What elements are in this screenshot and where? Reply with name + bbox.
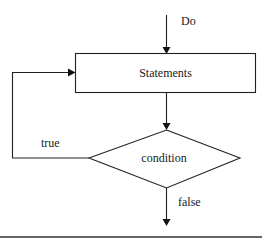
condition-diamond: condition: [89, 130, 240, 188]
true-label: true: [41, 136, 60, 150]
false-exit-arrow: [163, 188, 171, 226]
do-while-flowchart: Do Statements condition true false: [0, 0, 262, 239]
statements-to-condition-arrow: [163, 93, 171, 130]
false-label: false: [178, 195, 201, 209]
do-label: Do: [181, 14, 196, 28]
condition-label: condition: [141, 151, 186, 165]
statements-label: Statements: [139, 66, 192, 80]
statements-box: Statements: [76, 54, 256, 93]
entry-arrow: [163, 15, 171, 54]
